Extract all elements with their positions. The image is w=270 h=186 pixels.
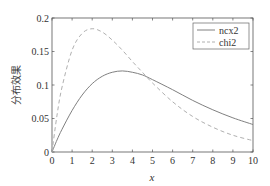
y-tick-label: 0.15	[32, 46, 50, 57]
x-tick-label: 3	[110, 155, 115, 166]
y-tick-labels: 00.050.10.150.2	[32, 13, 50, 158]
x-tick-label: 1	[70, 155, 75, 166]
x-tick-label: 2	[90, 155, 95, 166]
x-tick-label: 0	[50, 155, 55, 166]
y-tick-label: 0.05	[32, 113, 50, 124]
x-tick-label: 7	[190, 155, 195, 166]
x-tick-label: 9	[230, 155, 235, 166]
y-tick-label: 0	[44, 147, 49, 158]
x-tick-label: 10	[248, 155, 258, 166]
x-tick-labels: 012345678910	[50, 155, 259, 166]
legend-item-ncx2: ncx2	[219, 25, 238, 36]
x-tick-label: 5	[150, 155, 155, 166]
x-tick-label: 8	[210, 155, 215, 166]
legend: ncx2 chi2	[193, 23, 249, 49]
y-tick-label: 0.1	[37, 80, 50, 91]
x-tick-label: 6	[170, 155, 175, 166]
x-axis-label: x	[149, 171, 155, 183]
chart: 012345678910 00.050.10.150.2 x 分布效果 ncx2…	[0, 0, 270, 186]
legend-item-chi2: chi2	[219, 37, 236, 48]
x-tick-label: 4	[130, 155, 135, 166]
y-axis-label: 分布效果	[10, 65, 22, 105]
y-tick-label: 0.2	[37, 13, 50, 24]
